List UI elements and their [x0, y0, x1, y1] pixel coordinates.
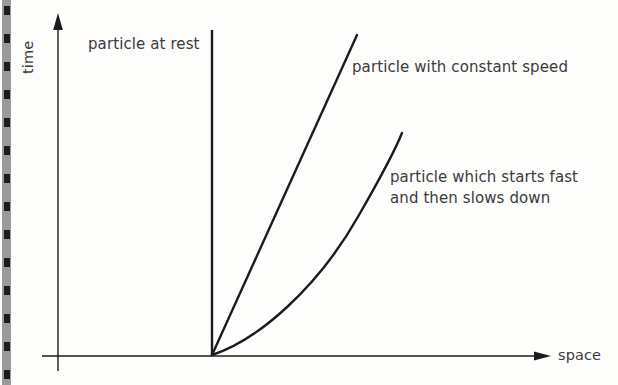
annotation-slows-down-line-2: and then slows down [390, 188, 578, 209]
worldline-slows-down [212, 133, 402, 355]
time-axis-arrowhead [53, 13, 63, 30]
worldline-constant-speed [212, 35, 357, 355]
space-axis-arrowhead [534, 351, 551, 360]
figure-page: time space particle at rest particle wit… [0, 0, 618, 385]
space-axis-label: space [558, 345, 601, 366]
time-axis-label: time [18, 41, 39, 74]
annotation-particle-at-rest: particle at rest [88, 34, 200, 55]
annotation-particle-slows-down: particle which starts fastand then slows… [390, 167, 578, 209]
annotation-particle-constant-speed: particle with constant speed [352, 57, 568, 78]
annotation-slows-down-line-1: particle which starts fast [390, 168, 578, 186]
